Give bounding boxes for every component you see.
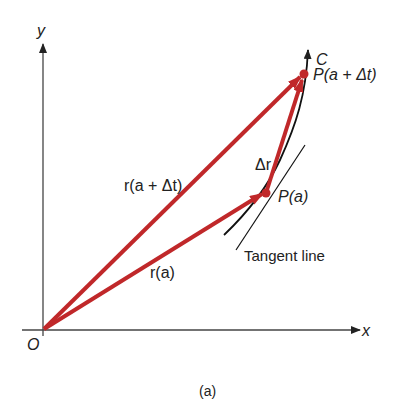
curve-c [224, 50, 308, 235]
point-label-p-a-dt: P(a + Δt) [313, 67, 377, 83]
point-p-a-dt [300, 70, 309, 79]
diagram-canvas [0, 0, 411, 401]
vector-r-a [44, 194, 262, 329]
vector-label-r-a-dt: r(a + Δt) [124, 178, 182, 194]
point-p-a [262, 189, 271, 198]
vector-label-r-a: r(a) [150, 265, 175, 281]
figure-caption: (a) [199, 384, 216, 398]
x-axis-label: x [362, 323, 370, 339]
tangent-line-label: Tangent line [244, 248, 325, 263]
origin-label: O [27, 337, 39, 353]
vector-r-a-dt [44, 77, 300, 329]
vector-label-delta-r: Δr [255, 157, 271, 173]
y-axis-label: y [37, 23, 45, 39]
point-label-p-a: P(a) [278, 189, 308, 205]
